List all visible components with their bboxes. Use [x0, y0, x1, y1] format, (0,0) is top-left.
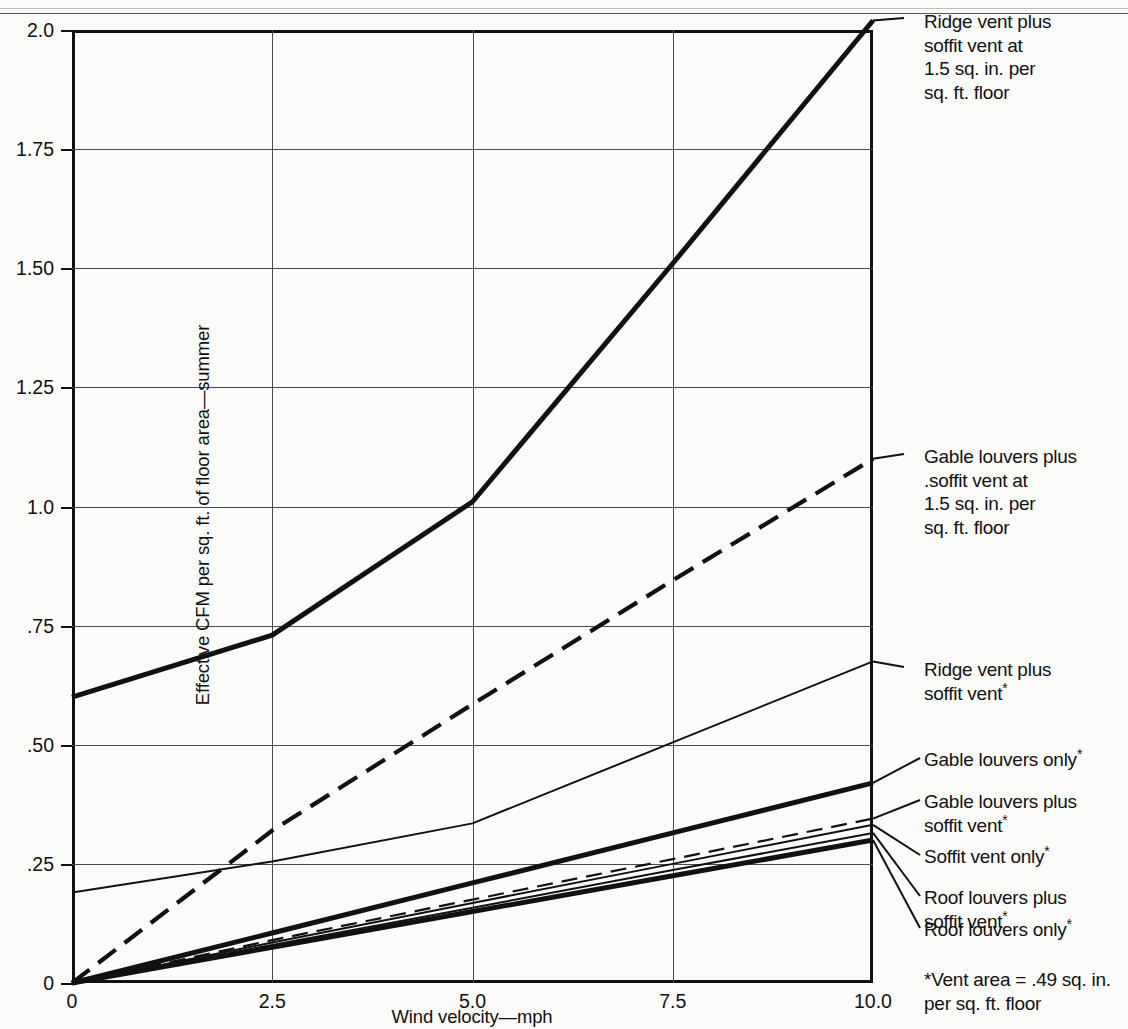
callout-gable-soffit-15-line-1: Gable louvers plus: [924, 445, 1077, 469]
footnote-marker: *: [1067, 916, 1072, 932]
leader-lines: [873, 18, 920, 928]
callout-ridge-soffit-15: Ridge vent plussoffit vent at1.5 sq. in.…: [924, 10, 1051, 104]
leader-line-ridge-soffit-15: [873, 18, 904, 21]
gridline-x-5.0: [473, 30, 474, 983]
callout-soffit-only-line-1: Soffit vent only*: [924, 845, 1049, 869]
y-tick-1.50: [61, 268, 72, 270]
footnote-marker: *: [1077, 746, 1082, 762]
callout-gable-soffit-line-2: soffit vent*: [924, 814, 1077, 838]
gridline-x-2.5: [272, 30, 273, 983]
y-tick-1.0: [61, 507, 72, 509]
leader-line-gable-soffit-15: [873, 454, 904, 459]
callout-gable-soffit-line-1: Gable louvers plus: [924, 790, 1077, 814]
y-tick-2.0: [61, 30, 72, 32]
callout-gable-only-line-1: Gable louvers only*: [924, 748, 1082, 772]
y-tick-.25: [61, 864, 72, 866]
callout-ridge-soffit: Ridge vent plussoffit vent*: [924, 658, 1051, 705]
callout-roof-soffit-line-1: Roof louvers plus: [924, 886, 1067, 910]
footnote-line-1: *Vent area = .49 sq. in.: [924, 968, 1111, 992]
leader-line-gable-soffit: [873, 800, 920, 819]
y-tick-label-.75: .75: [0, 615, 54, 638]
leader-line-roof-soffit: [873, 833, 920, 896]
callout-ridge-soffit-15-line-1: Ridge vent plus: [924, 10, 1051, 34]
y-tick-.75: [61, 626, 72, 628]
footnote-marker: *: [1044, 843, 1049, 859]
y-tick-label-.25: .25: [0, 853, 54, 876]
page-top-hairline: [0, 8, 1128, 9]
y-tick-1.75: [61, 149, 72, 151]
y-tick-label-1.25: 1.25: [0, 376, 54, 399]
chart-page: 0.25.50.751.01.251.501.752.0 02.55.07.51…: [0, 0, 1128, 1029]
callout-roof-only: Roof louvers only*: [924, 918, 1072, 942]
y-tick-1.25: [61, 387, 72, 389]
callout-gable-soffit-15-line-4: sq. ft. floor: [924, 516, 1077, 540]
footnote-marker: *: [1002, 679, 1007, 695]
callout-roof-only-line-1: Roof louvers only*: [924, 918, 1072, 942]
callout-ridge-soffit-15-line-4: sq. ft. floor: [924, 81, 1051, 105]
footnote: *Vent area = .49 sq. in. per sq. ft. flo…: [924, 968, 1111, 1016]
callout-ridge-soffit-line-1: Ridge vent plus: [924, 658, 1051, 682]
callout-gable-soffit: Gable louvers plussoffit vent*: [924, 790, 1077, 837]
footnote-line-2: per sq. ft. floor: [924, 992, 1111, 1016]
footnote-marker: *: [1002, 811, 1007, 827]
leader-line-soffit-only: [873, 825, 920, 855]
callout-gable-only: Gable louvers only*: [924, 748, 1082, 772]
y-tick-.50: [61, 745, 72, 747]
x-axis-title: Wind velocity—mph: [0, 1006, 944, 1028]
callout-soffit-only: Soffit vent only*: [924, 845, 1049, 869]
callout-gable-soffit-15-line-2: .soffit vent at: [924, 469, 1077, 493]
gridline-x-7.5: [673, 30, 674, 983]
y-axis-title: Effective CFM per sq. ft. of floor area—…: [192, 324, 214, 704]
callout-ridge-soffit-15-line-2: soffit vent at: [924, 34, 1051, 58]
callout-gable-soffit-15: Gable louvers plus.soffit vent at1.5 sq.…: [924, 445, 1077, 539]
y-tick-label-.50: .50: [0, 734, 54, 757]
callout-ridge-soffit-15-line-3: 1.5 sq. in. per: [924, 57, 1051, 81]
leader-line-ridge-soffit: [873, 661, 904, 667]
y-tick-label-1.50: 1.50: [0, 257, 54, 280]
y-tick-label-1.0: 1.0: [0, 496, 54, 519]
callout-gable-soffit-15-line-3: 1.5 sq. in. per: [924, 492, 1077, 516]
leader-line-roof-only: [873, 840, 920, 928]
leader-line-gable-only: [873, 758, 920, 783]
y-tick-label-2.0: 2.0: [0, 19, 54, 42]
callout-ridge-soffit-line-2: soffit vent*: [924, 682, 1051, 706]
y-tick-label-1.75: 1.75: [0, 138, 54, 161]
y-tick-0: [61, 983, 72, 985]
